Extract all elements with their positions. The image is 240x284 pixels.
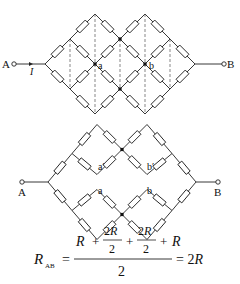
bottom-lattice (24, 125, 216, 240)
resistor-icon (103, 131, 116, 144)
junction-node (93, 62, 96, 65)
junction-node (120, 213, 123, 216)
resistor-icon (78, 218, 90, 231)
resistor-icon (103, 196, 116, 209)
num-term-4: R (171, 234, 181, 249)
resistor-icon (54, 190, 66, 203)
resistor-icon (103, 156, 116, 169)
label-node-a: a (98, 185, 103, 196)
label-node-a-prime: a′ (98, 161, 105, 172)
num-plus-1: + (92, 234, 99, 249)
resistor-icon (76, 45, 89, 58)
terminal-b-bottom (216, 180, 220, 184)
frac1-num: 2R (104, 224, 118, 238)
resistor-icon (78, 132, 90, 145)
label-b-bottom: B (214, 186, 221, 198)
resistor-icon (178, 161, 190, 174)
resistor-icon (176, 45, 189, 58)
label-b-top: B (227, 58, 234, 70)
label-a-bottom: A (18, 186, 26, 198)
resistor-icon (126, 70, 139, 83)
formula: R AB = R + 2R 2 + 2R 2 + R 2 = 2R (33, 224, 203, 279)
resistor-icon (128, 156, 141, 169)
resistor-icon (76, 70, 89, 83)
formula-denominator: 2 (118, 264, 125, 279)
label-node-a-top: a (98, 60, 103, 71)
terminal-a-bottom (20, 180, 24, 184)
resistor-icon (101, 70, 114, 83)
formula-result: = 2R (176, 252, 203, 267)
top-lattice (16, 14, 222, 114)
formula-equals: = (62, 252, 70, 267)
junction-node (120, 148, 123, 151)
label-node-b-top: b (149, 60, 154, 71)
resistor-icon (126, 95, 139, 108)
resistor-icon (51, 45, 64, 58)
resistor-icon (153, 194, 166, 206)
formula-lhs-sub: AB (45, 262, 55, 270)
resistor-icon (101, 45, 114, 58)
terminal-a-top (12, 62, 16, 66)
resistor-icon (153, 158, 166, 170)
label-a-top: A (2, 58, 10, 70)
resistor-icon (101, 95, 114, 108)
label-node-b: b (147, 185, 152, 196)
junction-node (118, 87, 121, 90)
frac2-num: 2R (138, 224, 152, 238)
resistor-icon (76, 20, 89, 33)
resistor-icon (153, 132, 165, 145)
resistor-icon (151, 70, 164, 83)
junction-node (118, 37, 121, 40)
resistor-icon (151, 20, 164, 33)
resistor-icon (128, 131, 141, 144)
formula-lhs: R (33, 251, 43, 267)
resistor-icon (151, 45, 164, 58)
label-node-b-prime: b′ (147, 161, 154, 172)
resistor-icon (126, 20, 139, 33)
resistor-icon (78, 194, 91, 206)
resistor-icon (101, 20, 114, 33)
num-term-1: R (75, 234, 85, 249)
frac1-den: 2 (109, 242, 115, 256)
resistor-icon (128, 196, 141, 209)
resistor-icon (151, 95, 164, 108)
terminal-b-top (222, 62, 226, 66)
resistor-icon (153, 218, 165, 231)
resistor-icon (76, 95, 89, 108)
resistor-icon (178, 190, 190, 203)
frac2-den: 2 (143, 242, 149, 256)
resistor-icon (51, 70, 64, 83)
junction-node (143, 62, 146, 65)
resistor-icon (176, 70, 189, 83)
num-plus-3: + (160, 234, 167, 249)
resistor-icon (126, 45, 139, 58)
resistor-icon (54, 161, 66, 174)
label-current: I (29, 66, 34, 77)
resistor-icon (78, 158, 91, 170)
circuit-diagrams: A I B a b A B a′ a b′ b R AB = R + 2R 2 … (0, 0, 240, 284)
num-plus-2: + (126, 234, 133, 249)
